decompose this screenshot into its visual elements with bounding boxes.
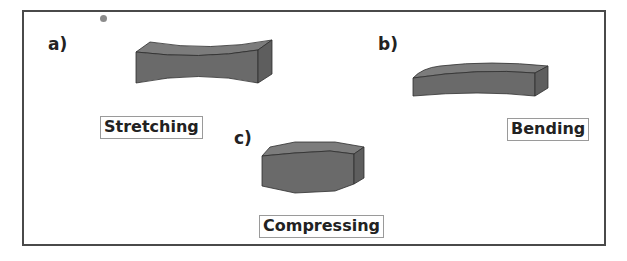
- caption-stretching: Stretching: [100, 116, 203, 139]
- panel-label-c: c): [234, 130, 252, 147]
- caption-compressing: Compressing: [259, 215, 384, 238]
- caption-bending: Bending: [507, 118, 589, 141]
- panel-label-b: b): [378, 36, 398, 53]
- stretched-block-shape: [130, 38, 280, 88]
- bent-block-shape: [410, 58, 555, 100]
- scan-artifact-dot: [100, 15, 107, 22]
- compressed-block-shape: [260, 140, 370, 200]
- panel-label-a: a): [48, 36, 67, 53]
